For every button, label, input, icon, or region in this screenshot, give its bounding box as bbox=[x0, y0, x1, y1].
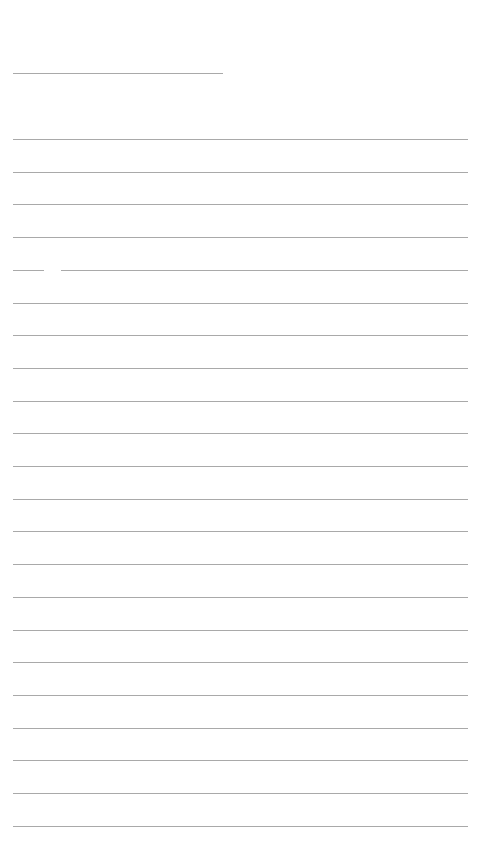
ruled-line bbox=[13, 728, 468, 729]
ruled-line bbox=[13, 303, 468, 304]
ruled-line bbox=[13, 401, 468, 402]
ruled-line bbox=[13, 139, 468, 140]
ruled-line bbox=[13, 270, 468, 271]
ruled-line bbox=[13, 368, 468, 369]
ruled-line bbox=[13, 204, 468, 205]
ruled-line bbox=[13, 564, 468, 565]
ruled-line bbox=[13, 597, 468, 598]
header-line bbox=[13, 73, 223, 74]
ruled-line bbox=[13, 826, 468, 827]
ruled-line bbox=[13, 630, 468, 631]
ruled-line bbox=[13, 760, 468, 761]
ruled-line bbox=[13, 531, 468, 532]
ruled-line bbox=[13, 172, 468, 173]
ruled-line bbox=[13, 237, 468, 238]
ruled-line bbox=[13, 335, 468, 336]
line-gap bbox=[44, 269, 61, 272]
ruled-line bbox=[13, 433, 468, 434]
ruled-line bbox=[13, 499, 468, 500]
ruled-line bbox=[13, 695, 468, 696]
ruled-line bbox=[13, 466, 468, 467]
ruled-line bbox=[13, 793, 468, 794]
ruled-line bbox=[13, 662, 468, 663]
